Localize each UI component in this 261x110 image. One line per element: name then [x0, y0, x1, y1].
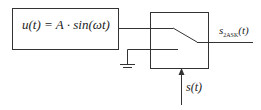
switch-box — [151, 13, 209, 69]
arrow-up-icon — [179, 68, 185, 75]
switch-blade — [173, 28, 197, 42]
ground-wire — [128, 50, 179, 65]
carrier-formula: u(t) = A · sin(ωt) — [22, 17, 110, 33]
control-signal-label: s(t) — [186, 80, 202, 95]
output-label: s2ASK(t) — [219, 24, 249, 38]
